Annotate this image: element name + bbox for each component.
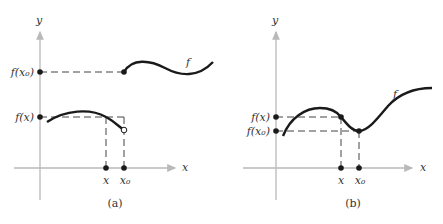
dot-fx-axis-a — [37, 114, 43, 120]
dot-open-a — [121, 127, 127, 133]
tick-label-x-b: x — [338, 174, 345, 187]
dot-fx0-axis-a — [37, 69, 43, 75]
dot-x-axis-b — [338, 165, 344, 171]
tick-label-x-a: x — [103, 174, 110, 187]
dot-x0-axis-a — [121, 165, 127, 171]
dot-fx-curve-b — [338, 114, 344, 120]
tick-label-fx-b: f(x) — [250, 111, 270, 124]
x-axis-label-a: x — [182, 161, 189, 174]
panel-b: y x f(x) f(x₀) x x₀ f (b) — [243, 14, 432, 210]
tick-label-fx0-b: f(x₀) — [246, 125, 270, 138]
dot-x-axis-a — [103, 165, 109, 171]
tick-label-x0-b: x₀ — [355, 174, 366, 187]
caption-a: (a) — [107, 197, 122, 210]
y-axis-label-b: y — [271, 14, 279, 27]
curve-left-branch-a — [47, 111, 124, 130]
dot-fx0-closed-a — [121, 69, 127, 75]
tick-label-fx-a: f(x) — [14, 111, 34, 124]
dot-fx0-curve-b — [356, 128, 362, 134]
dot-fx0-axis-b — [273, 128, 279, 134]
dot-fx-axis-b — [273, 114, 279, 120]
y-axis-label-a: y — [35, 14, 43, 27]
panel-a: y x f(x₀) f(x) x x₀ f (a) — [10, 14, 213, 210]
figure-root: y x f(x₀) f(x) x x₀ f (a) y x — [0, 0, 443, 224]
function-label-a: f — [185, 56, 192, 69]
tick-label-x0-a: x₀ — [120, 174, 131, 187]
x-axis-label-b: x — [420, 161, 427, 174]
function-label-b: f — [392, 88, 399, 101]
curve-right-branch-a — [124, 62, 213, 74]
caption-b: (b) — [345, 197, 361, 210]
tick-label-fx0-a: f(x₀) — [10, 66, 34, 79]
dot-x0-axis-b — [356, 165, 362, 171]
